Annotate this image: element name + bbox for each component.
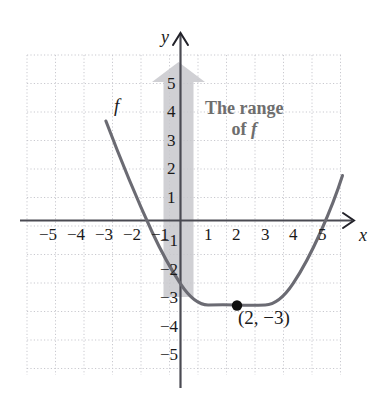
x-tick-label--3: −3: [95, 226, 113, 243]
x-tick-label-5: 5: [318, 226, 327, 243]
y-axis-label: y: [161, 28, 169, 46]
parabola-curve-f: [106, 121, 343, 305]
range-annotation-line1: The range: [205, 98, 284, 118]
y-tick-label--5: −5: [160, 346, 178, 363]
x-tick-label--4: −4: [67, 226, 85, 243]
x-axis-label: x: [359, 226, 367, 244]
x-tick-label--5: −5: [39, 226, 57, 243]
x-tick-label-4: 4: [289, 226, 298, 243]
x-tick-label-2: 2: [232, 226, 241, 243]
y-tick-label-5: 5: [167, 75, 176, 92]
x-tick-label-3: 3: [261, 226, 270, 243]
range-annotation-line2-fn: f: [251, 119, 257, 139]
y-tick-label-1: 1: [167, 189, 176, 206]
graph-figure: [0, 0, 385, 402]
x-tick-label--2: −2: [123, 226, 141, 243]
range-annotation-line2-prefix: of: [232, 119, 252, 139]
x-tick-label-1: 1: [204, 226, 213, 243]
range-annotation: The range of f: [205, 98, 284, 139]
y-tick-label-2: 2: [167, 160, 176, 177]
y-tick-label--3: −3: [160, 289, 178, 306]
y-tick-label-4: 4: [167, 103, 176, 120]
y-tick-label--1: −1: [160, 232, 178, 249]
curve-label-f: f: [114, 96, 119, 115]
y-tick-label--4: −4: [160, 318, 178, 335]
vertex-coordinate-label: (2, −3): [238, 308, 290, 327]
y-tick-label-3: 3: [167, 132, 176, 149]
y-tick-label--2: −2: [160, 261, 178, 278]
